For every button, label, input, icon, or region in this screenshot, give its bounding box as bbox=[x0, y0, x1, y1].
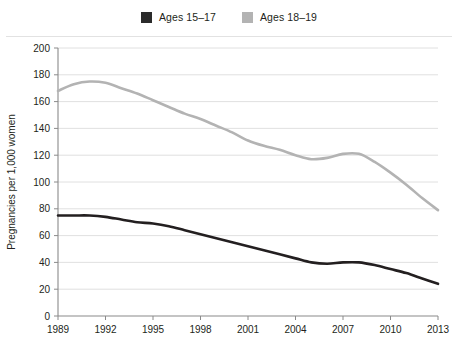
teen-pregnancy-rate-chart: Ages 15–17 Ages 18–19 020406080100120140… bbox=[0, 0, 458, 360]
data-series-group bbox=[58, 81, 438, 283]
x-axis-tick-label: 2007 bbox=[332, 324, 355, 335]
x-axis-tick-label: 2010 bbox=[379, 324, 402, 335]
y-axis-tick-label: 180 bbox=[33, 69, 50, 80]
y-axis-tick-label: 0 bbox=[44, 311, 50, 322]
x-axis-tick-label: 1998 bbox=[189, 324, 212, 335]
y-axis-tick-label: 200 bbox=[33, 43, 50, 54]
y-axis-tick-label: 80 bbox=[39, 203, 51, 214]
x-tick-group: 198919921995199820012004200720102013 bbox=[47, 316, 450, 335]
y-axis-tick-label: 120 bbox=[33, 150, 50, 161]
x-axis-tick-label: 1992 bbox=[94, 324, 117, 335]
y-axis-tick-label: 140 bbox=[33, 123, 50, 134]
gridlines-group bbox=[58, 48, 438, 289]
y-axis-tick-label: 100 bbox=[33, 177, 50, 188]
chart-plot-area: 020406080100120140160180200 198919921995… bbox=[0, 0, 458, 360]
x-axis-tick-label: 2004 bbox=[284, 324, 307, 335]
x-axis-tick-label: 1989 bbox=[47, 324, 70, 335]
y-axis-tick-label: 60 bbox=[39, 230, 51, 241]
x-axis-tick-label: 2001 bbox=[237, 324, 260, 335]
y-axis-tick-label: 160 bbox=[33, 96, 50, 107]
x-axis-tick-label: 2013 bbox=[427, 324, 450, 335]
x-axis-tick-label: 1995 bbox=[142, 324, 165, 335]
y-tick-group: 020406080100120140160180200 bbox=[33, 43, 58, 322]
series-line-ages-18-19 bbox=[58, 81, 438, 210]
y-axis-title: Pregnancies per 1,000 women bbox=[6, 114, 17, 250]
y-axis-tick-label: 20 bbox=[39, 284, 51, 295]
series-line-ages-15-17 bbox=[58, 215, 438, 283]
y-axis-tick-label: 40 bbox=[39, 257, 51, 268]
